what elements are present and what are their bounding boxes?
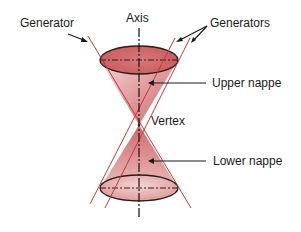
generator-label: Generator <box>20 16 74 30</box>
lower-nappe-label: Lower nappe <box>213 154 282 168</box>
generators-label: Generators <box>210 16 270 30</box>
generators-leader-line-2 <box>193 26 207 41</box>
double-cone-diagram: Axis Generator Generators Upper nappe Ve… <box>0 0 301 232</box>
vertex-label: Vertex <box>151 114 185 128</box>
vertex-point <box>138 124 141 127</box>
upper-nappe-label: Upper nappe <box>212 76 281 90</box>
generator-arrowhead-icon <box>81 37 88 42</box>
generators-arrowhead-1-icon <box>176 37 183 42</box>
axis-label: Axis <box>126 11 149 25</box>
